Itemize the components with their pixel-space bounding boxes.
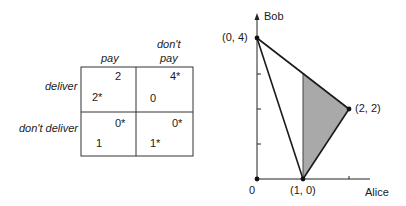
plot-graphics bbox=[0, 0, 406, 206]
x-axis-label: Alice bbox=[365, 186, 389, 198]
point-2-2 bbox=[347, 107, 352, 112]
point-1-0 bbox=[301, 177, 306, 182]
shaded-region bbox=[303, 74, 349, 179]
y-axis-arrow-icon bbox=[255, 13, 260, 20]
point-label-0-4: (0, 4) bbox=[222, 31, 248, 43]
origin-label: 0 bbox=[249, 184, 255, 196]
point-0-4 bbox=[255, 36, 260, 41]
point-origin bbox=[255, 177, 260, 182]
y-axis-label: Bob bbox=[264, 10, 284, 22]
point-label-2-2: (2, 2) bbox=[355, 102, 381, 114]
point-label-1-0: (1, 0) bbox=[290, 184, 316, 196]
